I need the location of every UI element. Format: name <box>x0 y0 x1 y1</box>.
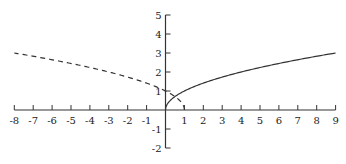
x-tick-label: 1 <box>181 115 187 126</box>
y-tick-label: -2 <box>152 143 162 154</box>
axes: -8-7-6-5-4-3-2-1123456789-2-112345 <box>9 10 338 154</box>
solid-curve <box>166 53 336 110</box>
x-tick-label: -7 <box>28 115 38 126</box>
x-tick-label: 3 <box>219 115 225 126</box>
y-tick-label: 4 <box>155 29 161 40</box>
x-tick-label: -6 <box>47 115 57 126</box>
y-tick-label: -1 <box>152 124 162 135</box>
x-tick-label: 6 <box>276 115 282 126</box>
x-tick-label: -5 <box>66 115 76 126</box>
x-tick-label: -8 <box>9 115 19 126</box>
function-graph: -8-7-6-5-4-3-2-1123456789-2-112345 <box>0 0 346 164</box>
curves <box>14 53 335 110</box>
x-tick-label: 7 <box>295 115 301 126</box>
x-tick-label: 4 <box>238 115 244 126</box>
x-tick-label: 9 <box>332 115 338 126</box>
y-tick-label: 2 <box>155 67 161 78</box>
x-tick-label: -1 <box>142 115 152 126</box>
x-tick-label: 2 <box>200 115 206 126</box>
dashed-curve <box>14 53 184 110</box>
x-tick-label: 8 <box>314 115 320 126</box>
x-tick-label: -3 <box>104 115 114 126</box>
x-tick-label: -4 <box>85 115 95 126</box>
y-tick-label: 3 <box>155 48 161 59</box>
x-tick-label: 5 <box>257 115 263 126</box>
x-tick-label: -2 <box>123 115 133 126</box>
y-tick-label: 5 <box>155 10 161 21</box>
